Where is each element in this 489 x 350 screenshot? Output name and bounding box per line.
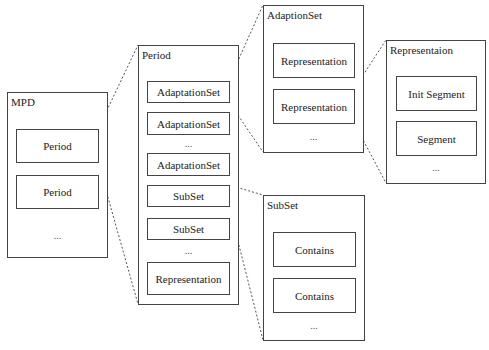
- representation-ellipsis: ...: [387, 164, 485, 172]
- period-representation-item: Representation: [147, 262, 230, 295]
- subset-ellipsis: ...: [264, 322, 364, 330]
- period-box: Period AdaptationSet AdaptationSet ... A…: [138, 45, 239, 305]
- mpd-period-item: Period: [16, 175, 99, 209]
- mpd-ellipsis: ...: [8, 232, 107, 240]
- segment-item: Segment: [396, 121, 477, 156]
- representation-title: Representaion: [390, 44, 453, 56]
- representation-box: Representaion Init Segment Segment ...: [386, 40, 486, 184]
- mpd-title: MPD: [11, 96, 35, 108]
- mpd-box: MPD Period Period ...: [7, 92, 108, 258]
- adaptionset-box: AdaptionSet Representation Representatio…: [263, 5, 364, 153]
- adaptionset-title: AdaptionSet: [267, 9, 322, 21]
- adaptionset-representation-item: Representation: [273, 89, 355, 124]
- period-ellipsis: ...: [139, 247, 238, 255]
- period-adaptationset-item: AdaptationSet: [147, 153, 230, 176]
- mpd-period-item: Period: [16, 129, 99, 163]
- period-subset-item: SubSet: [147, 185, 230, 207]
- period-subset-item: SubSet: [147, 218, 230, 240]
- period-adaptationset-item: AdaptationSet: [147, 81, 230, 103]
- adaptionset-representation-item: Representation: [273, 43, 355, 78]
- init-segment-item: Init Segment: [396, 76, 477, 111]
- subset-box: SubSet Contains Contains ...: [263, 195, 365, 341]
- period-adaptationset-item: AdaptationSet: [147, 112, 230, 135]
- period-ellipsis: ...: [139, 140, 238, 148]
- subset-contains-item: Contains: [273, 278, 356, 313]
- period-title: Period: [142, 49, 171, 61]
- subset-contains-item: Contains: [273, 232, 356, 267]
- adaptionset-ellipsis: ...: [264, 133, 363, 141]
- subset-title: SubSet: [267, 199, 298, 211]
